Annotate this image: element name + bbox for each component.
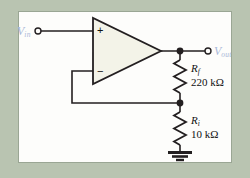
rf-name-label: Rf (191, 63, 200, 76)
output-voltage-label: Vout (214, 45, 232, 59)
resistor-rf-group (174, 51, 186, 103)
figure-root: + − Vin Vout Rf 220 kΩ Ri 10 kΩ (0, 0, 250, 178)
rf-subscript: f (198, 67, 200, 76)
rf-zigzag (174, 60, 186, 93)
output-terminal-circle (205, 48, 211, 54)
opamp-inverting-sign: − (97, 66, 103, 77)
rf-value-label: 220 kΩ (191, 77, 224, 88)
input-voltage-subscript: in (24, 30, 30, 39)
ri-symbol: R (191, 114, 198, 126)
input-voltage-label: Vin (17, 25, 31, 39)
input-wire-group (35, 28, 93, 34)
feedback-wire (72, 71, 180, 103)
ri-value-label: 10 kΩ (191, 129, 218, 140)
ri-subscript: i (198, 119, 200, 128)
rf-symbol: R (191, 62, 198, 74)
ground-icon (168, 153, 192, 161)
circuit-diagram (0, 0, 250, 178)
ri-zigzag (174, 112, 186, 145)
input-terminal-circle (35, 28, 41, 34)
ri-name-label: Ri (191, 115, 200, 128)
opamp-noninverting-sign: + (97, 25, 103, 36)
resistor-ri-group (174, 103, 186, 152)
output-voltage-subscript: out (221, 50, 231, 59)
output-wire-group (161, 48, 211, 55)
